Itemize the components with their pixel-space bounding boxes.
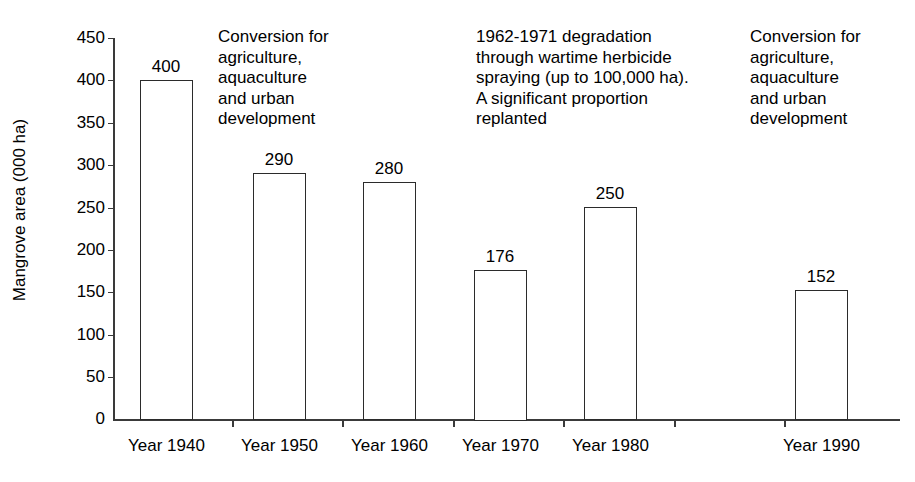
- x-tick-mark: [784, 420, 786, 427]
- bar-value-label: 400: [126, 58, 206, 75]
- bar-value-label: 290: [239, 151, 319, 168]
- plot-area: 450 400 350 300 250 200 150 100: [0, 0, 915, 482]
- x-tick-mark: [232, 420, 234, 427]
- bar-year-1940[interactable]: [140, 80, 193, 420]
- y-tick-label: 200: [55, 241, 105, 258]
- x-tick-label: Year 1990: [766, 436, 877, 456]
- y-axis-line: [113, 38, 115, 420]
- x-tick-mark: [342, 420, 344, 427]
- x-tick-label: Year 1970: [445, 436, 556, 456]
- bar-year-1980[interactable]: [584, 207, 637, 420]
- bar-year-1970[interactable]: [474, 270, 527, 421]
- annotation-middle: 1962-1971 degradation through wartime he…: [476, 27, 726, 130]
- y-tick-label: 250: [55, 199, 105, 216]
- bar-value-label: 152: [781, 268, 861, 285]
- bar-year-1960[interactable]: [363, 182, 416, 421]
- x-tick-label: Year 1940: [111, 436, 222, 456]
- bar-value-label: 250: [570, 185, 650, 202]
- y-tick-label: 0: [55, 410, 105, 427]
- x-tick-label: Year 1980: [555, 436, 666, 456]
- x-tick-label: Year 1950: [224, 436, 335, 456]
- y-tick-label: 450: [55, 29, 105, 46]
- bar-year-1990[interactable]: [795, 290, 848, 420]
- annotation-left: Conversion for agriculture, aquaculture …: [218, 27, 378, 130]
- bar-year-1950[interactable]: [253, 173, 306, 420]
- bar-value-label: 176: [460, 248, 540, 265]
- chart-figure: Mangrove area (000 ha) 450 400 350 300 2…: [0, 0, 915, 482]
- y-tick-label: 150: [55, 283, 105, 300]
- y-tick-label: 400: [55, 71, 105, 88]
- y-tick-label: 100: [55, 326, 105, 343]
- y-tick-label: 350: [55, 114, 105, 131]
- x-tick-label: Year 1960: [334, 436, 445, 456]
- annotation-right: Conversion for agriculture, aquaculture …: [750, 27, 910, 130]
- x-tick-mark: [674, 420, 676, 427]
- bar-value-label: 280: [349, 160, 429, 177]
- x-tick-mark: [563, 420, 565, 427]
- y-tick-label: 50: [55, 368, 105, 385]
- x-tick-mark: [453, 420, 455, 427]
- y-tick-label: 300: [55, 156, 105, 173]
